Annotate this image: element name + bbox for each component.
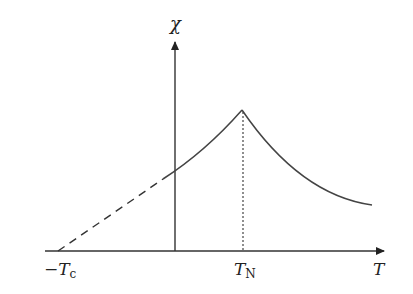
y-axis-label: χ: [168, 13, 182, 34]
neg-tc-label: −Tc: [44, 259, 77, 281]
tn-sub: N: [245, 267, 256, 281]
x-axis-label: T: [373, 259, 386, 279]
chi-vs-t-diagram: χ T −Tc TN: [0, 0, 413, 294]
tn-label: TN: [234, 259, 256, 281]
neg-tc-sub: c: [70, 267, 77, 281]
neg-tc-main: −T: [44, 259, 71, 279]
curve-right-branch: [242, 110, 372, 205]
dashed-extrapolation-line: [58, 179, 163, 251]
